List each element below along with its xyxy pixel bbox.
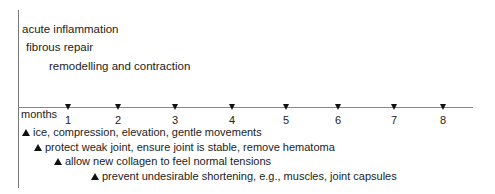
triangle-up-icon [22, 129, 30, 136]
tick-label: 4 [224, 114, 240, 126]
vertical-axis-line [18, 10, 19, 188]
tick-marker-icon [391, 104, 397, 110]
tick-marker-icon [229, 104, 235, 110]
action-item: ice, compression, elevation, gentle move… [22, 126, 262, 139]
tick-label: 5 [278, 114, 294, 126]
tick-marker-icon [335, 104, 341, 110]
phase-remodelling: remodelling and contraction [49, 60, 190, 73]
time-axis-line [18, 107, 473, 108]
action-item: prevent undesirable shortening, e.g., mu… [91, 170, 397, 183]
tick-label: 6 [330, 114, 346, 126]
phase-fibrous-repair: fibrous repair [26, 41, 93, 54]
tick-marker-icon [65, 104, 71, 110]
triangle-up-icon [34, 144, 42, 151]
tick-marker-icon [283, 104, 289, 110]
tick-marker-icon [115, 104, 121, 110]
tick-label: 7 [386, 114, 402, 126]
tick-marker-icon [440, 104, 446, 110]
tick-label: 2 [110, 114, 126, 126]
tick-label: 3 [167, 114, 183, 126]
tick-marker-icon [172, 104, 178, 110]
action-item: allow new collagen to feel normal tensio… [54, 155, 271, 168]
tick-label: 1 [60, 114, 76, 126]
tick-label: 8 [435, 114, 451, 126]
phase-acute-inflammation: acute inflammation [22, 23, 119, 36]
action-item: protect weak joint, ensure joint is stab… [34, 141, 335, 154]
triangle-up-icon [54, 158, 62, 165]
triangle-up-icon [91, 173, 99, 180]
axis-label-months: months [21, 108, 57, 120]
